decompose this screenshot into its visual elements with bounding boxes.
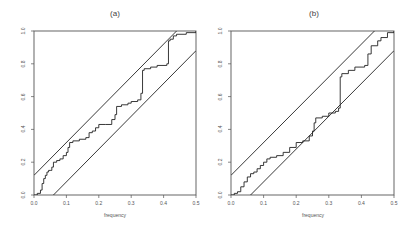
y-tick-label: 0.2 [20,154,26,170]
x-tick-label: 0.3 [123,200,139,206]
cumulative-periodogram-line [231,31,394,195]
panel-a-plot [0,0,207,231]
y-tick-label: 0.2 [217,154,223,170]
x-tick-label: 0.0 [26,200,42,206]
y-tick-label: 1.0 [20,23,26,39]
lower-band-line [251,51,394,195]
cumulative-periodogram-line [34,31,196,195]
y-tick-label: 0.4 [217,121,223,137]
y-tick-label: 1.0 [217,23,223,39]
panel-a: (a) frequency 0.00.10.20.30.40.50.00.20.… [0,0,207,231]
upper-band-line [231,31,374,175]
x-tick-label: 0.1 [256,200,272,206]
x-tick-label: 0.0 [223,200,239,206]
y-tick-label: 0.8 [20,56,26,72]
x-tick-label: 0.2 [288,200,304,206]
upper-band-line [34,31,177,175]
x-tick-label: 0.4 [353,200,369,206]
y-tick-label: 0.6 [217,89,223,105]
panel-b-plot [197,0,404,231]
plot-frame [231,31,394,195]
y-tick-label: 0.0 [20,187,26,203]
y-tick-label: 0.6 [20,89,26,105]
x-tick-label: 0.4 [156,200,172,206]
panel-a-xlabel: frequency [90,212,140,218]
lower-band-line [53,51,196,195]
x-tick-label: 0.2 [91,200,107,206]
y-tick-label: 0.0 [217,187,223,203]
x-tick-label: 0.1 [58,200,74,206]
y-tick-label: 0.8 [217,56,223,72]
y-tick-label: 0.4 [20,121,26,137]
x-tick-label: 0.5 [386,200,402,206]
panel-b-xlabel: frequency [288,212,338,218]
panel-b: (b) frequency 0.00.10.20.30.40.50.00.20.… [197,0,404,231]
plot-frame [34,31,196,195]
x-tick-label: 0.3 [321,200,337,206]
